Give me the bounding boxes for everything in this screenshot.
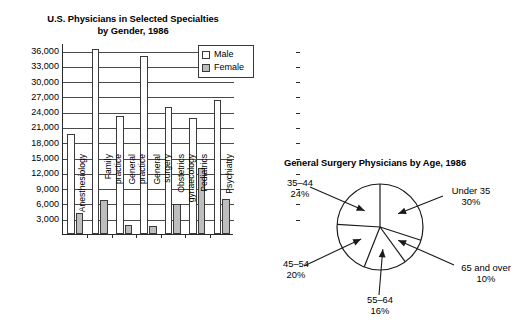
x-axis-category-label-line2: gynaecology [187, 154, 197, 240]
pie-slice-label: Under 3530% [440, 185, 502, 208]
y-axis-tick-label: 30,000 [19, 78, 59, 87]
pie-slice-label: 65 and over10% [447, 262, 516, 285]
pie-slice-label: 35–4424% [274, 177, 326, 200]
pie-slice-label: 55–6416% [350, 294, 410, 317]
x-axis-category-label: Pediatrics [200, 154, 210, 240]
pie-slice-percent: 16% [350, 305, 410, 316]
legend-swatch-male-icon [202, 51, 210, 59]
pie-slice-percent: 10% [447, 273, 516, 284]
x-axis-category-label: Anesthesiology [78, 154, 88, 240]
x-axis-category-label: Familypractice [104, 154, 123, 240]
x-axis-category-label: Obstetricsgynaecology [177, 154, 196, 240]
x-axis-category-label-line1: Obstetrics [176, 154, 186, 193]
y-axis-tick-label: 36,000 [19, 47, 59, 56]
y-axis-tick-label: 15,000 [19, 154, 59, 163]
x-axis-category-label-line2: surgery [162, 154, 172, 240]
bar-chart-title-line1: U.S. Physicians in Selected Specialties [47, 13, 219, 24]
legend-item-female: Female [202, 61, 250, 74]
y-axis-tick-label: 21,000 [19, 123, 59, 132]
legend-label-female: Female [214, 63, 244, 72]
gridline [63, 143, 234, 144]
x-axis-category-label: Generalsurgery [153, 154, 172, 240]
y-axis-tick-label: 9,000 [19, 185, 59, 194]
gridline [63, 128, 234, 129]
x-axis-category-label-line2: practice [138, 154, 148, 240]
pie-slice-label: 45–5420% [270, 258, 322, 281]
y-axis-tick-label: 3,000 [19, 215, 59, 224]
x-axis-category-label-line2: practice [113, 154, 123, 240]
x-axis-category-label-line1: General [127, 154, 137, 185]
pie-slice-name: 35–44 [287, 177, 313, 188]
x-axis-category-label: Psychiatry [225, 154, 235, 240]
pie-chart-figure: General Surgery Physicians by Age, 1986 … [258, 0, 488, 329]
x-axis-category-label-line1: Pediatrics [199, 154, 209, 192]
legend-item-male: Male [202, 48, 250, 61]
pie-slice-percent: 24% [274, 188, 326, 199]
bar-male [67, 134, 75, 234]
gridline [63, 97, 234, 98]
legend-swatch-female-icon [202, 64, 210, 72]
y-axis-tick-label: 27,000 [19, 93, 59, 102]
gridline [63, 113, 234, 114]
x-axis-category-label: Generalpractice [128, 154, 147, 240]
gridline [63, 82, 234, 83]
y-axis-tick-label: 6,000 [19, 200, 59, 209]
pie-slice-name: 65 and over [461, 262, 511, 273]
y-axis-tick-label: 18,000 [19, 139, 59, 148]
bar-chart-legend: Male Female [198, 45, 254, 78]
bar-chart-figure: U.S. Physicians in Selected Specialties … [0, 0, 258, 329]
bar-male [92, 49, 100, 234]
x-axis-category-label-line1: General [152, 154, 162, 185]
x-axis-category-label-line1: Psychiatry [224, 154, 234, 194]
pie-slice-percent: 20% [270, 269, 322, 280]
legend-label-male: Male [214, 50, 234, 59]
pie-slice-name: Under 35 [452, 185, 491, 196]
pie-slice-name: 45–54 [283, 258, 309, 269]
x-axis-category-label-line1: Family [103, 154, 113, 179]
pie-slice-percent: 30% [440, 196, 502, 207]
y-axis-tick-label: 24,000 [19, 108, 59, 117]
x-axis-category-label-line1: Anesthesiology [77, 154, 87, 212]
y-axis-tick-labels: 3,0006,0009,00012,00015,00018,00021,0002… [16, 0, 59, 329]
y-axis-tick-label: 33,000 [19, 62, 59, 71]
bar-male [214, 100, 222, 234]
x-axis-category-tick [210, 234, 211, 238]
y-axis-tick-label: 12,000 [19, 169, 59, 178]
pie-slice-name: 55–64 [367, 294, 393, 305]
pie-leader-line [379, 249, 386, 295]
